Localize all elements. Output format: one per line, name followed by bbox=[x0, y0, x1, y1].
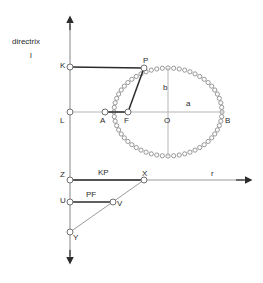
label-U: U bbox=[60, 197, 66, 205]
label-Z: Z bbox=[60, 171, 65, 179]
label-A: A bbox=[100, 117, 105, 125]
label-PF: PF bbox=[86, 191, 96, 199]
label-KP: KP bbox=[98, 169, 109, 177]
label-r: r bbox=[211, 170, 214, 178]
label-O: O bbox=[164, 117, 170, 125]
point-Z bbox=[67, 177, 73, 183]
segment-KP bbox=[70, 67, 144, 68]
point-A bbox=[102, 109, 108, 115]
label-F: F bbox=[124, 117, 129, 125]
label-K: K bbox=[60, 62, 65, 70]
label-L: L bbox=[60, 117, 64, 125]
label-B: B bbox=[225, 117, 230, 125]
segment-XY bbox=[70, 180, 144, 232]
label-b: b bbox=[163, 84, 167, 92]
label-a: a bbox=[186, 100, 190, 108]
label-Y: Y bbox=[73, 234, 78, 242]
label-X: X bbox=[142, 170, 147, 178]
point-U bbox=[67, 199, 73, 205]
point-F bbox=[125, 109, 131, 115]
point-P bbox=[141, 65, 147, 71]
point-L bbox=[67, 109, 73, 115]
label-directrix: directrix bbox=[12, 38, 40, 46]
point-V bbox=[110, 199, 116, 205]
label-P: P bbox=[143, 57, 148, 65]
point-K bbox=[67, 64, 73, 70]
label-directrix-line: l bbox=[30, 52, 32, 60]
label-V: V bbox=[117, 200, 122, 208]
figure-canvas: directrix l K L P A F O B a b Z X KP U V… bbox=[0, 0, 263, 283]
